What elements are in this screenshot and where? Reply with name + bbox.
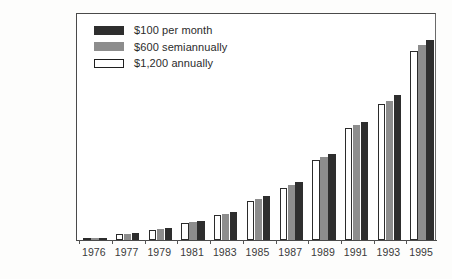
bar	[230, 212, 237, 240]
legend-label: $100 per month	[134, 24, 212, 36]
y-axis-labels: 050,000100,000$150,000	[0, 0, 72, 279]
legend-item: $600 semiannually	[94, 41, 227, 53]
bar	[328, 154, 335, 240]
bar	[353, 125, 360, 240]
x-axis-tick-label: 1981	[176, 246, 208, 258]
bar	[189, 222, 196, 240]
chart-figure: 050,000100,000$150,000 19761977197919811…	[0, 0, 452, 279]
bar	[197, 221, 204, 240]
bar	[247, 201, 254, 240]
x-axis-tick-label: 1983	[209, 246, 241, 258]
bar-group	[312, 14, 335, 240]
x-axis-tick-mark	[145, 240, 146, 244]
bar	[280, 188, 287, 240]
x-axis-tick-label: 1985	[242, 246, 274, 258]
bar	[426, 40, 433, 240]
bar-group	[247, 14, 270, 240]
x-axis-tick-mark	[341, 240, 342, 244]
bar	[157, 229, 164, 240]
legend-label: $600 semiannually	[134, 41, 227, 53]
bar	[288, 185, 295, 240]
x-axis-tick-label: 1995	[405, 246, 437, 258]
x-axis-tick-mark	[406, 240, 407, 244]
x-axis-tick-mark	[112, 240, 113, 244]
x-axis-tick-mark	[374, 240, 375, 244]
x-axis-tick-label: 1976	[78, 246, 110, 258]
bar	[361, 122, 368, 240]
bar-group	[410, 14, 433, 240]
x-axis-tick-mark	[243, 240, 244, 244]
bar	[394, 95, 401, 240]
bar	[378, 104, 385, 240]
legend-label: $1,200 annually	[134, 57, 213, 69]
bar	[345, 128, 352, 240]
x-axis-tick-mark	[210, 240, 211, 244]
bar	[295, 182, 302, 240]
legend-swatch-monthly	[94, 26, 124, 35]
chart-legend: $100 per month$600 semiannually$1,200 an…	[94, 24, 227, 69]
x-axis-tick-mark	[79, 240, 80, 244]
bar	[418, 45, 425, 240]
legend-item: $1,200 annually	[94, 57, 227, 69]
legend-swatch-semi	[94, 42, 124, 51]
bar-group	[345, 14, 368, 240]
legend-swatch-annually	[94, 59, 124, 68]
x-axis-tick-label: 1989	[307, 246, 339, 258]
x-axis-line	[76, 240, 437, 241]
bar	[320, 157, 327, 240]
bar	[165, 228, 172, 240]
x-axis-tick-mark	[276, 240, 277, 244]
bar-group	[280, 14, 303, 240]
legend-item: $100 per month	[94, 24, 227, 36]
bar	[263, 196, 270, 240]
bar	[312, 160, 319, 240]
bar	[214, 215, 221, 240]
x-axis-tick-label: 1987	[274, 246, 306, 258]
x-axis-tick-mark	[177, 240, 178, 244]
bar	[181, 223, 188, 240]
bar	[386, 101, 393, 240]
bar	[222, 214, 229, 240]
x-axis-tick-label: 1977	[111, 246, 143, 258]
bar	[149, 230, 156, 240]
x-axis-tick-mark	[308, 240, 309, 244]
x-axis-tick-label: 1991	[340, 246, 372, 258]
x-axis-tick-label: 1979	[143, 246, 175, 258]
bar	[410, 51, 417, 240]
bar-group	[378, 14, 401, 240]
bar	[255, 199, 262, 240]
x-axis-tick-label: 1993	[372, 246, 404, 258]
